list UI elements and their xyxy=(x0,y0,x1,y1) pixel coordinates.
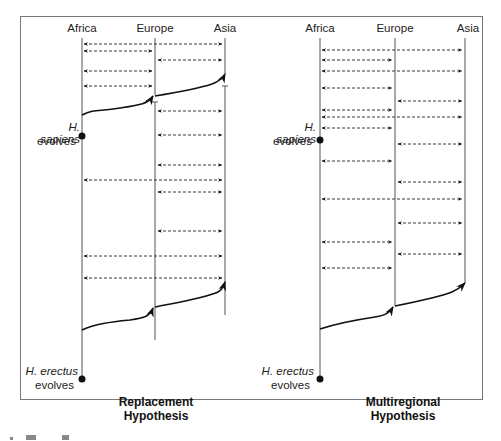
erectus-label-evolves: evolves xyxy=(22,379,74,391)
panel-title-line2: Hypothesis xyxy=(118,409,194,423)
region-label-asia: Asia xyxy=(205,22,245,34)
replacement-dispersals xyxy=(82,74,225,330)
panel-title-replacement: Replacement Hypothesis xyxy=(118,395,194,423)
panel-title-line1: Replacement xyxy=(118,395,194,409)
sapiens-label-evolves: evolves xyxy=(28,135,76,147)
multiregional-gene-flow xyxy=(322,50,462,268)
panel-title-multiregional: Multiregional Hypothesis xyxy=(360,395,446,423)
erectus-label-evolves: evolves xyxy=(258,379,310,391)
caption-fragment xyxy=(10,435,69,440)
region-label-africa: Africa xyxy=(300,22,340,34)
region-label-africa: Africa xyxy=(62,22,102,34)
erectus-origin-dot xyxy=(79,376,86,383)
erectus-label: H. erectus xyxy=(258,365,314,377)
region-label-europe: Europe xyxy=(133,22,177,34)
replacement-gene-flow xyxy=(84,44,222,278)
region-label-europe: Europe xyxy=(373,22,417,34)
erectus-label: H. erectus xyxy=(22,365,78,377)
multiregional-dispersals xyxy=(320,283,465,329)
sapiens-label-evolves: evolves xyxy=(262,135,312,147)
sapiens-origin-dot xyxy=(317,137,324,144)
multiregional-panel xyxy=(320,38,465,380)
panel-title-line1: Multiregional xyxy=(360,395,446,409)
region-label-asia: Asia xyxy=(448,22,488,34)
erectus-origin-dot xyxy=(317,376,324,383)
panel-title-line2: Hypothesis xyxy=(360,409,446,423)
replacement-panel xyxy=(82,38,228,380)
